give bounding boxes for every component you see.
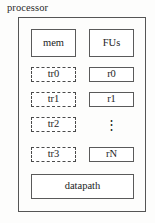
processor-container: mem FUs tr0 tr1 tr2 tr3 r0 r1 ⋮ rN datap… bbox=[18, 17, 146, 212]
block-fus: FUs bbox=[89, 29, 134, 57]
processor-caption: processor bbox=[7, 1, 48, 14]
block-tr1: tr1 bbox=[31, 92, 76, 107]
block-r1: r1 bbox=[89, 92, 134, 107]
registers-ellipsis: ⋮ bbox=[89, 117, 134, 132]
block-r0: r0 bbox=[89, 67, 134, 82]
block-tr2: tr2 bbox=[31, 117, 76, 132]
block-rn: rN bbox=[89, 147, 134, 162]
block-tr0: tr0 bbox=[31, 67, 76, 82]
block-tr3: tr3 bbox=[31, 147, 76, 162]
block-datapath: datapath bbox=[31, 174, 134, 199]
diagram-canvas: processor mem FUs tr0 tr1 tr2 tr3 r0 r1 … bbox=[0, 0, 155, 223]
block-mem: mem bbox=[31, 29, 76, 57]
